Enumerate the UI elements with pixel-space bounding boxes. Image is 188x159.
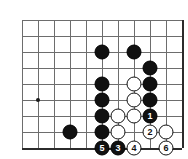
- black-stone: [95, 45, 110, 60]
- move-stone-3: 3: [111, 141, 126, 156]
- move-stone-1: 1: [143, 109, 158, 124]
- grid-line-vertical: [54, 20, 55, 148]
- white-stone: [127, 77, 142, 92]
- black-stone: [63, 125, 78, 140]
- black-stone: [95, 109, 110, 124]
- black-stone: [95, 77, 110, 92]
- move-stone-2: 2: [143, 125, 158, 140]
- hoshi-marker: [36, 98, 40, 102]
- move-stone-5: 5: [95, 141, 110, 156]
- grid-line-vertical: [86, 20, 87, 148]
- move-stone-6: 6: [159, 141, 174, 156]
- black-stone: [95, 93, 110, 108]
- white-stone: [127, 93, 142, 108]
- move-number-label: 2: [147, 127, 152, 136]
- move-number-label: 6: [163, 143, 168, 152]
- white-stone: [159, 125, 174, 140]
- grid-line-vertical: [38, 20, 39, 148]
- black-stone: [127, 45, 142, 60]
- move-number-label: 4: [131, 143, 136, 152]
- grid-line-vertical: [22, 20, 23, 148]
- move-number-label: 3: [115, 143, 120, 152]
- grid-line-vertical: [182, 20, 184, 148]
- white-stone: [111, 125, 126, 140]
- go-board: 123456: [0, 0, 188, 159]
- move-number-label: 5: [99, 143, 104, 152]
- move-number-label: 1: [147, 111, 152, 120]
- black-stone: [143, 93, 158, 108]
- white-stone: [127, 109, 142, 124]
- move-stone-4: 4: [127, 141, 142, 156]
- black-stone: [143, 77, 158, 92]
- black-stone: [143, 61, 158, 76]
- white-stone: [111, 109, 126, 124]
- black-stone: [95, 125, 110, 140]
